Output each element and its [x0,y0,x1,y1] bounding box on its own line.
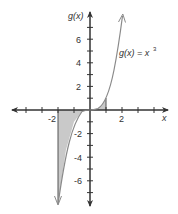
y-tick-label-neg6: -6 [74,176,82,186]
function-label: g(x) = x [119,48,150,58]
y-tick-label-6: 6 [76,35,81,45]
function-exponent: 3 [153,46,157,52]
y-axis-label: g(x) [68,11,84,21]
y-tick-label-4: 4 [76,58,81,68]
x-tick-label-2: 2 [119,114,124,124]
cubic-function-graph: -2 2 x 6 4 2 -2 -4 -6 g(x) g(x) = x 3 [0,0,178,214]
y-tick-label-neg2: -2 [74,129,82,139]
y-tick-label-neg4: -4 [74,153,82,163]
x-tick-label-neg2: -2 [48,114,56,124]
y-tick-label-2: 2 [76,82,81,92]
x-axis-label: x [161,113,167,123]
